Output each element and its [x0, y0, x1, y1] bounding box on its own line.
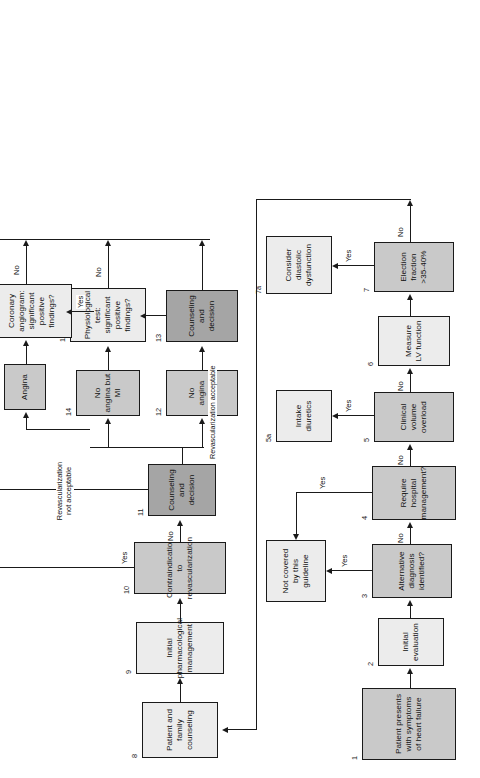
edge-4-yes-riser	[296, 492, 372, 493]
edge-label-11-acceptable: Revascularization acceptable	[208, 365, 217, 461]
node-1-number: 1	[350, 756, 359, 760]
edge-11-notacceptable-riser	[0, 489, 148, 490]
node-3a-label: Not coveredby thisguideline	[281, 549, 311, 594]
edge-7-no-riser	[256, 199, 411, 200]
node-17-label: Coronaryangiogram:significantpositivefin…	[7, 290, 57, 332]
node-8-number: 8	[130, 754, 139, 758]
edge-17-no-run	[26, 244, 27, 284]
node-11-number: 11	[136, 508, 145, 516]
edge-15-no-run	[108, 244, 109, 288]
node-13-number: 13	[154, 334, 163, 342]
arrow-11-to-14	[105, 418, 111, 424]
node-7a-label: Considerdiastolicdysfunction	[284, 244, 314, 286]
node-14-label: Noangina but MI	[93, 373, 123, 413]
node-7-label: Electionfraction>35-40%	[399, 250, 429, 283]
arrow-4-to-5	[407, 444, 413, 450]
node-6-number: 6	[366, 362, 375, 366]
arrow-3-to-3a	[326, 568, 332, 574]
node-3-label: Alternativediagnosisidentified?	[397, 551, 427, 590]
edge-13-to-bus	[202, 244, 203, 290]
arrow-5-to-5a	[332, 413, 338, 419]
edge-11-stub	[182, 447, 183, 464]
node-2-number: 2	[366, 662, 375, 666]
node-14-no-angina-but-mi: Noangina but MI	[76, 370, 140, 416]
arrow-2-to-3	[407, 600, 413, 606]
edge-label-10-yes: Yes	[120, 551, 129, 565]
edge-no-bus-vertical	[0, 239, 210, 240]
node-13-label: Counselinganddecision	[187, 295, 217, 337]
node-16-label: Angina	[20, 374, 30, 400]
edge-14-to-15	[108, 350, 109, 370]
edge-bus-to-16-riser	[26, 429, 90, 430]
node-16-angina: Angina	[4, 364, 46, 410]
node-7-number: 7	[362, 288, 371, 292]
edge-1-to-2	[410, 672, 411, 688]
arrow-10-to-11	[177, 520, 183, 526]
node-11-label: Counselinganddecision	[167, 469, 197, 511]
edge-11-to-12	[202, 422, 203, 448]
flowchart-stage: Patient presentswith symptomsof heart fa…	[0, 0, 480, 778]
node-9-initial-pharmacological: Initialpharmacologicalmanagement	[136, 622, 224, 674]
flowchart-frame: Patient presentswith symptomsof heart fa…	[0, 0, 480, 778]
node-6-label: MeasureLV function	[404, 321, 424, 362]
node-9-number: 9	[124, 670, 133, 674]
edge-label-3-no: No	[396, 532, 405, 544]
node-6-measure-lv-function: MeasureLV function	[378, 316, 450, 366]
edge-8-to-9	[180, 682, 181, 702]
edge-10-no-to-11	[180, 524, 181, 542]
node-3-alternative-diagnosis: Alternativediagnosisidentified?	[372, 544, 452, 598]
arrow-7-no-to-8	[222, 727, 228, 733]
edge-7-no-return	[256, 199, 257, 730]
edge-label-15-yes: Yes	[76, 295, 85, 309]
edge-4-yes-run	[296, 493, 297, 534]
node-5-clinical-volume-overload: Clinicalvolumeoverload	[374, 392, 454, 442]
edge-3-no-to-4	[410, 526, 411, 544]
arrow-12-to-13	[199, 346, 205, 352]
arrow-6-to-7	[407, 294, 413, 300]
node-3a-not-covered: Not coveredby thisguideline	[266, 540, 326, 602]
edge-5-no-to-6	[410, 372, 411, 392]
node-8-label: Patient andfamilycounseling	[165, 709, 195, 751]
edge-label-4-yes: Yes	[318, 476, 327, 490]
node-10-contraindication: Contraindicationtorevascularization	[134, 542, 226, 594]
node-5-number: 5	[362, 438, 371, 442]
node-7-ejection-fraction: Electionfraction>35-40%	[374, 242, 454, 292]
arrow-8-to-9	[177, 678, 183, 684]
edge-label-7-no: No	[396, 226, 405, 238]
arrow-13-to-15	[140, 313, 146, 319]
node-8-patient-family-counseling: Patient andfamilycounseling	[142, 702, 218, 758]
edge-label-10-no: No	[166, 530, 175, 542]
node-2-label: Initialevaluation	[401, 623, 421, 661]
edge-6-to-7	[410, 298, 411, 316]
edge-3-yes-to-3a	[332, 570, 372, 571]
arrow-15-to-17	[66, 309, 72, 315]
arrow-1-to-2	[407, 668, 413, 674]
edge-label-4-no: No	[396, 454, 405, 466]
node-4-label: Requirehospitalmanagement?	[399, 467, 429, 520]
node-2-initial-evaluation: Initialevaluation	[378, 618, 444, 666]
arrow-13-to-bus	[199, 240, 205, 246]
edge-label-11-not-acceptable: Revascularizationnot acceptable	[56, 440, 74, 542]
edge-11-to-14	[108, 422, 109, 448]
arrow-7-to-7a	[332, 263, 338, 269]
node-3-number: 3	[360, 594, 369, 598]
node-16-number: 16	[0, 402, 1, 410]
arrow-14-to-15	[105, 346, 111, 352]
node-10-number: 10	[122, 586, 131, 594]
node-13-counseling-decision: Counselinganddecision	[166, 290, 238, 342]
arrow-7-no	[407, 200, 413, 206]
node-11-counseling-decision: Counselinganddecision	[148, 464, 216, 516]
edge-4-no-to-5	[410, 448, 411, 466]
node-1-patient-presents: Patient presentswith symptomsof heart fa…	[362, 688, 456, 760]
edge-bus-to-16	[26, 416, 27, 430]
edge-7-no-to-8-riser	[228, 729, 257, 730]
node-12-number: 12	[154, 408, 163, 416]
node-1-label: Patient presentswith symptomsof heart fa…	[394, 694, 424, 754]
arrow-4-to-3a	[293, 534, 299, 540]
arrow-3-to-4	[407, 522, 413, 528]
arrow-bus-to-16	[23, 412, 29, 418]
edge-7-yes-to-7a	[338, 265, 374, 266]
node-17-coronary-angiogram: Coronaryangiogram:significantpositivefin…	[0, 284, 72, 338]
edge-2-to-3	[410, 604, 411, 618]
edge-15-yes-to-17	[72, 311, 94, 312]
